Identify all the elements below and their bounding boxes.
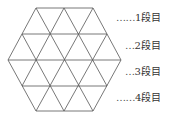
leader-dots: ……	[116, 92, 135, 103]
row-label-4: ……4段目	[116, 92, 161, 104]
leader-dots: …	[125, 40, 135, 51]
leader-dots: ……	[116, 12, 135, 23]
leader-dots: …	[125, 66, 135, 77]
row-label-text: 2段目	[135, 40, 161, 51]
row-label-text: 3段目	[135, 66, 161, 77]
row-label-3: …3段目	[125, 66, 161, 78]
row-label-2: …2段目	[125, 40, 161, 52]
row-label-text: 4段目	[135, 92, 161, 103]
row-label-text: 1段目	[135, 12, 161, 23]
row-label-1: ……1段目	[116, 12, 161, 24]
